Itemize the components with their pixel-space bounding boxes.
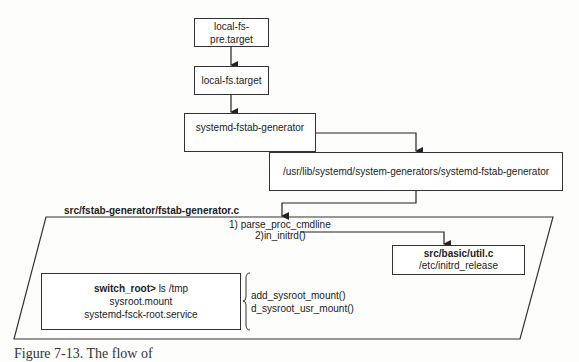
switch-root-command: ls /tmp: [156, 283, 188, 294]
node-util-c: src/basic/util.c /etc/initrd_release: [392, 245, 525, 275]
node-label: local-fs-pre.target: [195, 20, 268, 46]
func-sysroot-usr-mount: d_sysroot_usr_mount(): [251, 303, 354, 315]
node-local-fs-target: local-fs.target: [194, 66, 269, 95]
node-local-fs-pre-target: local-fs-pre.target: [194, 18, 269, 47]
node-label: /usr/lib/systemd/system-generators/syste…: [283, 165, 549, 178]
switch-root-prompt: switch_root>: [94, 283, 156, 294]
node-label: systemd-fstab-generator: [196, 121, 304, 134]
switch-root-line3: systemd-fsck-root.service: [84, 308, 197, 321]
node-switch-root: switch_root> ls /tmp sysroot.mount syste…: [41, 273, 241, 330]
brace: [243, 273, 250, 330]
func-add-sysroot-mount: add_sysroot_mount(): [251, 290, 346, 302]
step-in-initrd: 2)in_initrd(): [255, 230, 306, 242]
switch-root-line1: switch_root> ls /tmp: [94, 282, 188, 295]
node-systemd-fstab-generator: systemd-fstab-generator: [184, 113, 316, 152]
node-generator-path: /usr/lib/systemd/system-generators/syste…: [269, 152, 563, 191]
figure-caption: Figure 7-13. The flow of: [14, 346, 153, 362]
switch-root-line2: sysroot.mount: [110, 295, 173, 308]
node-label: local-fs.target: [201, 74, 261, 87]
node-title: src/basic/util.c: [424, 248, 493, 260]
node-detail: /etc/initrd_release: [419, 260, 498, 272]
source-file-label: src/fstab-generator/fstab-generator.c: [64, 205, 239, 217]
